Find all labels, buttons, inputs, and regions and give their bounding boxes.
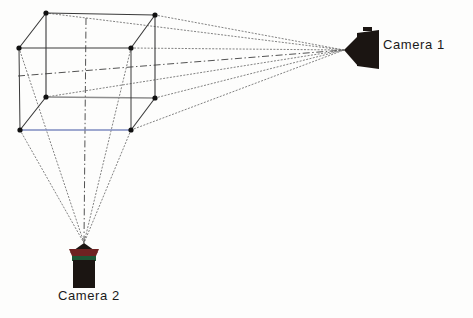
vertex-front-bottom-left bbox=[17, 127, 22, 132]
camera2-icon[interactable] bbox=[69, 243, 99, 288]
calibration-cube bbox=[19, 13, 155, 130]
ray-c1-back-bottom-left bbox=[46, 50, 344, 97]
cube-edge-back-bottom bbox=[46, 97, 155, 98]
camera1-body bbox=[357, 30, 379, 69]
camera2-lens-rim bbox=[69, 249, 99, 256]
cube-edge-depth-top-left bbox=[19, 13, 46, 48]
ray-c1-front-top-right bbox=[131, 48, 344, 50]
camera1-viewfinder bbox=[363, 27, 372, 31]
rays-to-camera2 bbox=[19, 48, 131, 243]
vertex-front-top-right bbox=[128, 45, 133, 50]
camera2-body bbox=[73, 260, 95, 288]
vertex-front-bottom-right bbox=[128, 127, 133, 132]
ray-c2-front-bottom-right bbox=[84, 130, 131, 243]
camera1-lens-cone bbox=[344, 36, 358, 66]
ray-c1-front-bottom-right bbox=[131, 50, 344, 130]
cube-edge-depth-bottom-right bbox=[131, 98, 155, 130]
vertex-back-bottom-right bbox=[152, 95, 157, 100]
ray-c2-front-bottom-left bbox=[20, 130, 84, 243]
diagram-canvas: Camera 1 Camera 2 bbox=[0, 0, 473, 318]
cube-edge-back-top bbox=[46, 13, 155, 15]
cube-edge-front-left bbox=[19, 48, 20, 130]
rays-to-camera1 bbox=[46, 13, 344, 130]
camera2-label: Camera 2 bbox=[58, 288, 120, 303]
ray-c1-back-top-left bbox=[46, 13, 344, 50]
vertex-back-top-left bbox=[43, 10, 48, 15]
vertex-front-top-left bbox=[16, 45, 21, 50]
cube-vertices bbox=[16, 10, 157, 132]
camera1-icon[interactable] bbox=[344, 27, 379, 69]
vertex-back-top-right bbox=[152, 12, 157, 17]
cube-edge-depth-bottom-left bbox=[20, 97, 46, 130]
camera1-optical-axis bbox=[18, 50, 344, 76]
camera1-label: Camera 1 bbox=[383, 37, 445, 52]
ray-c2-front-top-right bbox=[84, 48, 131, 243]
vertex-back-bottom-left bbox=[43, 94, 48, 99]
ray-c1-back-top-right bbox=[155, 15, 344, 50]
cube-edge-depth-top-right bbox=[131, 15, 155, 48]
